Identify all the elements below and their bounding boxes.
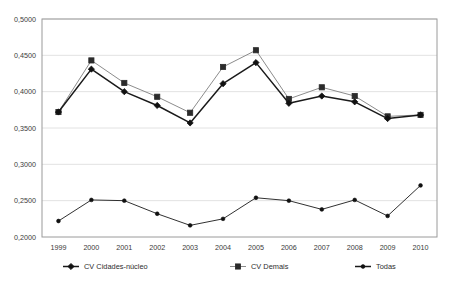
data-point-marker: [89, 58, 94, 63]
line-chart: 0,20000,25000,30000,35000,40000,45000,50…: [0, 0, 460, 281]
legend-label: Todas: [376, 262, 396, 271]
y-tick-label: 0,4000: [14, 87, 36, 96]
data-point-marker: [386, 214, 390, 218]
y-tick-label: 0,2500: [14, 196, 36, 205]
data-point-marker: [122, 199, 126, 203]
x-tick-label: 2004: [215, 243, 231, 252]
x-tick-label: 2003: [182, 243, 198, 252]
x-tick-label: 2007: [314, 243, 330, 252]
x-tick-label: 2006: [281, 243, 297, 252]
legend-label: CV Cidades-núcleo: [84, 262, 148, 271]
y-tick-label: 0,3000: [14, 160, 36, 169]
data-point-marker: [89, 198, 93, 202]
data-point-marker: [353, 198, 357, 202]
data-point-marker: [155, 94, 160, 99]
data-point-marker: [57, 219, 61, 223]
y-tick-label: 0,5000: [14, 15, 36, 24]
data-point-marker: [122, 80, 127, 85]
x-tick-label: 2008: [347, 243, 363, 252]
x-tick-label: 1999: [50, 243, 66, 252]
data-point-marker: [320, 207, 324, 211]
y-tick-label: 0,2000: [14, 233, 36, 242]
y-tick-label: 0,3500: [14, 124, 36, 133]
x-tick-label: 2005: [248, 243, 264, 252]
chart-container: 0,20000,25000,30000,35000,40000,45000,50…: [0, 0, 460, 281]
data-point-marker: [361, 265, 365, 269]
x-tick-label: 2001: [116, 243, 132, 252]
chart-background: [0, 0, 460, 281]
data-point-marker: [235, 264, 240, 269]
data-point-marker: [188, 110, 193, 115]
x-tick-label: 2000: [83, 243, 99, 252]
x-tick-label: 2002: [149, 243, 165, 252]
data-point-marker: [319, 85, 324, 90]
x-tick-label: 2009: [380, 243, 396, 252]
data-point-marker: [287, 199, 291, 203]
data-point-marker: [155, 212, 159, 216]
data-point-marker: [419, 184, 423, 188]
legend-label: CV Demais: [251, 262, 289, 271]
data-point-marker: [221, 217, 225, 221]
data-point-marker: [253, 48, 258, 53]
data-point-marker: [220, 64, 225, 69]
y-tick-label: 0,4500: [14, 51, 36, 60]
data-point-marker: [352, 93, 357, 98]
data-point-marker: [254, 196, 258, 200]
data-point-marker: [188, 223, 192, 227]
x-tick-label: 2010: [413, 243, 429, 252]
